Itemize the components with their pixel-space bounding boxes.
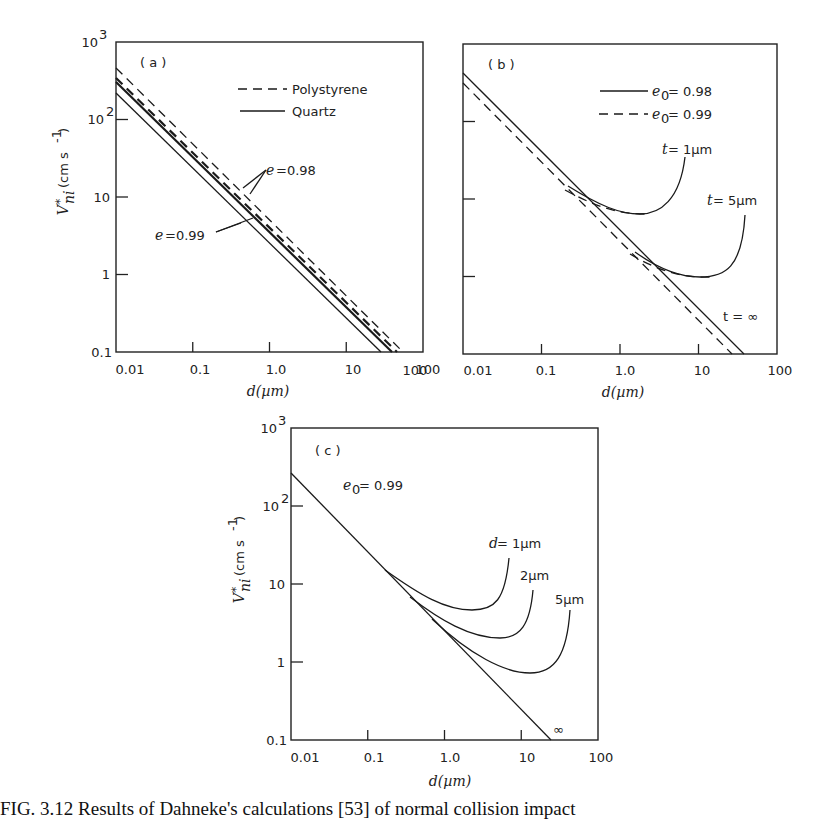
y-tick-label: 1	[102, 267, 110, 282]
panel-c: 0.1 1 10 10 2 10 3 0.01 0.1 1.0 10 100 d…	[225, 413, 613, 789]
x-tick-label: 100	[589, 750, 614, 765]
annotation-t5-value: = 5µm	[713, 193, 757, 208]
series-quartz-e098	[116, 82, 392, 352]
x-tick-label: 0.1	[536, 363, 557, 378]
y-tick-exponent: 3	[278, 413, 286, 428]
y-tick-label: 0.1	[91, 345, 112, 360]
y-tick-label: 10	[81, 35, 98, 50]
y-tick-label: 10	[87, 112, 104, 127]
y-axis-label: V * ni (cm s -1 )	[49, 128, 77, 215]
panel-c-frame	[291, 428, 598, 740]
svg-text:ni: ni	[237, 579, 253, 593]
series-e098-t5	[635, 215, 745, 277]
x-tick-label: 1.0	[440, 750, 461, 765]
x-tick-label: 0.1	[190, 362, 211, 377]
annotation-d1-value: = 1µm	[497, 536, 541, 551]
series-e099-t-inf	[463, 83, 732, 354]
annotation-t-inf: t = ∞	[723, 309, 758, 324]
series-e098-t1	[568, 157, 685, 214]
panel-label: ( b )	[488, 57, 515, 72]
annotation-pointer	[216, 218, 253, 232]
x-axis-label: d(µm)	[429, 773, 471, 789]
series-quartz-e099	[116, 93, 381, 352]
legend-label: = 0.98	[668, 84, 712, 99]
legend-label: Quartz	[292, 104, 336, 119]
x-tick-label: 0.01	[464, 363, 493, 378]
y-axis-label: V * ni (cm s -1 )	[225, 516, 253, 603]
series-polystyrene-e099	[116, 78, 397, 352]
x-tick-label: 0.01	[291, 750, 320, 765]
x-tick-label: 10	[345, 362, 362, 377]
annotation-d5: 5µm	[555, 592, 584, 607]
x-tick-label: 100	[768, 363, 793, 378]
annotation-d-inf: ∞	[553, 722, 564, 737]
series-d5	[432, 610, 570, 673]
x-axis-label: d(µm)	[602, 384, 644, 400]
y-tick-exponent: 2	[106, 104, 114, 119]
y-tick-label: 10	[268, 577, 285, 592]
panel-a: 0.1 1 10 10 2 10 3 0.01 0.1 1.0 10 100 d…	[49, 27, 440, 399]
annotation-pointer	[250, 170, 266, 194]
x-tick-label: 10	[519, 750, 536, 765]
legend-symbol: e	[652, 106, 660, 122]
annotation-e098: e	[266, 162, 274, 178]
figure-canvas: 0.1 1 10 10 2 10 3 0.01 0.1 1.0 10 100 d…	[0, 0, 826, 822]
svg-text:(cm s: (cm s	[56, 152, 71, 188]
annotation-e0-value: = 0.99	[359, 478, 403, 493]
legend-label: Polystyrene	[292, 82, 368, 97]
panel-label: ( c )	[315, 443, 341, 458]
y-tick-exponent: 3	[99, 27, 107, 42]
legend-symbol: e	[652, 83, 660, 99]
annotation-t1-value: = 1µm	[668, 142, 712, 157]
y-tick-label: 0.1	[266, 733, 287, 748]
annotation-e0-symbol: e	[343, 477, 351, 493]
annotation-e099-value: =0.99	[165, 228, 205, 243]
svg-text:): )	[232, 516, 247, 521]
x-tick-label: 0.1	[364, 750, 385, 765]
x-tick-label: 1.0	[615, 363, 636, 378]
x-axis-label: d(µm)	[247, 383, 289, 399]
x-tick-label: 10	[694, 363, 711, 378]
annotation-e098-value: =0.98	[276, 163, 316, 178]
series-e099-t1	[565, 190, 645, 214]
y-tick-exponent: 2	[281, 491, 289, 506]
x-tick-label: 100	[403, 363, 428, 378]
series-d1	[385, 558, 509, 610]
legend-label: = 0.99	[668, 107, 712, 122]
y-tick-label: 10	[93, 190, 110, 205]
x-tick-label: 1.0	[266, 362, 287, 377]
annotation-pointer	[243, 170, 266, 188]
annotation-d2: 2µm	[520, 568, 549, 583]
y-tick-label: 10	[260, 421, 277, 436]
y-tick-label: 10	[262, 499, 279, 514]
series-d-inf	[291, 473, 551, 740]
svg-text:(cm s: (cm s	[232, 540, 247, 576]
annotation-e099: e	[155, 227, 163, 243]
figure-caption: FIG. 3.12 Results of Dahneke's calculati…	[0, 798, 575, 820]
panel-label: ( a )	[140, 55, 166, 70]
svg-text:): )	[56, 128, 71, 133]
y-tick-label: 1	[277, 655, 285, 670]
svg-text:ni: ni	[61, 191, 77, 205]
panel-b: 0.01 0.1 1.0 10 100 100 d(µm) ( b ) e 0 …	[403, 44, 793, 400]
x-tick-label: 0.01	[116, 362, 145, 377]
